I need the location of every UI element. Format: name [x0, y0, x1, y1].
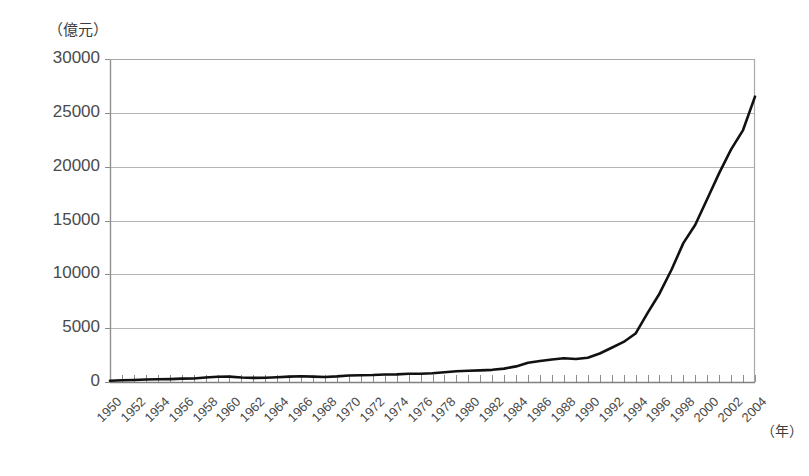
y-axis-tick-label: 25000 [8, 102, 100, 122]
y-axis-tick-label: 15000 [8, 210, 100, 230]
axes-group [110, 59, 755, 383]
y-axis-tick-label: 30000 [8, 48, 100, 68]
data-series-line [110, 97, 755, 381]
y-axis-tick-label: 20000 [8, 156, 100, 176]
y-axis-tick-label: 10000 [8, 263, 100, 283]
x-axis-unit-label: （年） [761, 420, 803, 440]
y-axis-tick-label: 5000 [8, 317, 100, 337]
y-axis-tick-label: 0 [8, 371, 100, 391]
chart-container: （億元） 050001000015000200002500030000 1950… [0, 0, 809, 476]
